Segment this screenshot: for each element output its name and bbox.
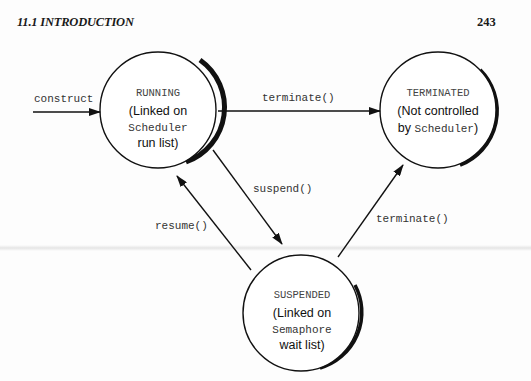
state-running: RUNNING (Linked on Scheduler run list): [100, 52, 225, 168]
transition-resume-label: resume(): [155, 220, 208, 232]
state-running-line2: Scheduler: [128, 122, 187, 134]
transition-suspend: suspend(): [213, 150, 312, 244]
transition-terminate-label-1: terminate(): [262, 92, 335, 104]
state-terminated-name: TERMINATED: [406, 87, 469, 99]
state-suspended: SUSPENDED (Linked on Semaphore wait list…: [243, 255, 362, 371]
state-terminated: TERMINATED (Not controlled by Scheduler): [380, 52, 497, 168]
state-suspended-line3: wait list): [278, 338, 324, 352]
state-suspended-name: SUSPENDED: [274, 289, 331, 301]
transition-terminate-label-2: terminate(): [376, 213, 449, 225]
state-running-name: RUNNING: [136, 87, 180, 99]
transition-suspend-label: suspend(): [253, 183, 312, 195]
state-suspended-line1: (Linked on: [273, 306, 331, 320]
state-running-line3: run list): [138, 136, 179, 150]
state-running-line1: (Linked on: [129, 104, 187, 118]
transition-construct-label: construct: [34, 93, 93, 105]
transition-construct: construct: [33, 93, 100, 112]
state-diagram: RUNNING (Linked on Scheduler run list) T…: [0, 0, 531, 381]
state-suspended-line2: Semaphore: [272, 324, 331, 336]
state-terminated-line1: (Not controlled: [397, 104, 478, 118]
book-page: 11.1 INTRODUCTION 243 RUNNING (Linked on…: [0, 0, 531, 381]
state-terminated-line2: by Scheduler): [398, 121, 478, 135]
transition-suspended-terminated: terminate(): [338, 165, 449, 257]
transition-resume: resume(): [155, 176, 251, 270]
transition-running-terminated: terminate(): [218, 92, 380, 111]
